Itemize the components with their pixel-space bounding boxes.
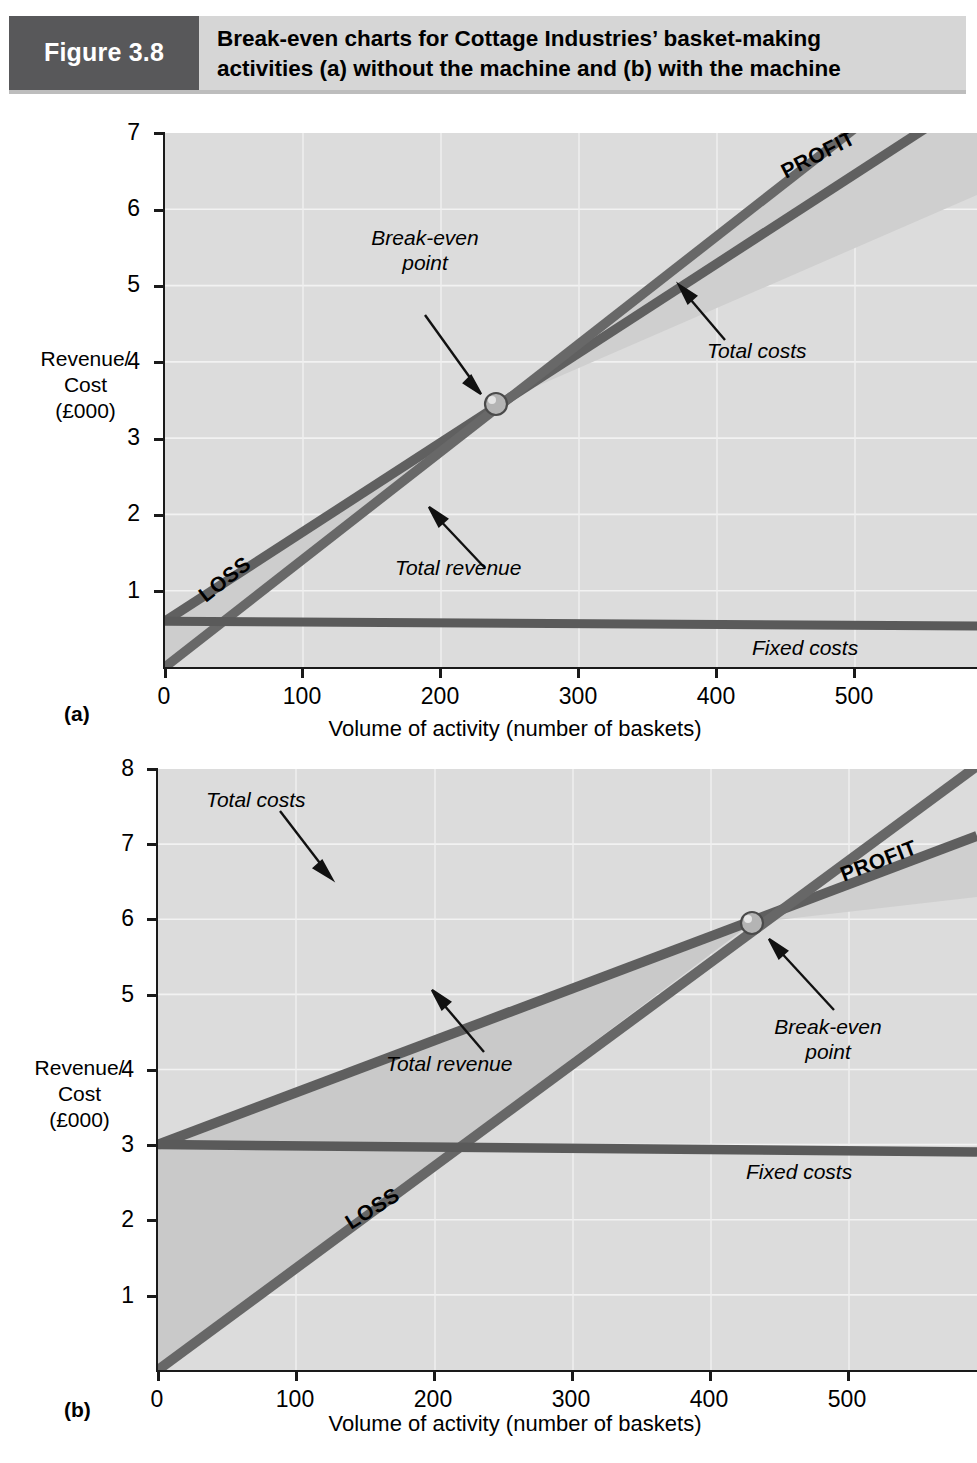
chart-a-ytick-3: 3: [106, 424, 140, 451]
figure-title: Break-even charts for Cottage Industries…: [217, 24, 962, 84]
chart-a-ytick-1: 1: [106, 577, 140, 604]
chart-a-break-even-highlight: [488, 396, 496, 404]
figure-number-label: Figure 3.8: [44, 38, 164, 67]
chart-b-ytick-8: 8: [100, 755, 134, 782]
chart-b-ytick-3: 3: [100, 1131, 134, 1158]
chart-a-x-axis-title: Volume of activity (number of baskets): [265, 716, 765, 742]
chart-b-xtick-100: 100: [265, 1386, 325, 1413]
chart-a-annotation-arrows: [165, 133, 725, 568]
chart-b-break-even-label-line2: point: [805, 1040, 851, 1063]
chart-b-xtick-mark-100: [295, 1370, 298, 1381]
chart-b-xtick-500: 500: [817, 1386, 877, 1413]
chart-b: Revenue/ Cost (£000) 8 7 6 5 4 3 2 1: [0, 755, 975, 1463]
chart-b-xtick-mark-500: [847, 1370, 850, 1381]
chart-a-break-even-label: Break-even point: [315, 225, 535, 275]
chart-a-ytick-5: 5: [106, 271, 140, 298]
chart-a-xtick-mark-0: [164, 667, 167, 678]
chart-b-ytick-1: 1: [100, 1282, 134, 1309]
chart-b-xtick-0: 0: [127, 1386, 187, 1413]
chart-a-y-title-line-2: Cost: [64, 373, 107, 396]
chart-a-xtick-200: 200: [410, 683, 470, 710]
chart-a-svg: [165, 133, 977, 669]
chart-b-ytick-7: 7: [100, 830, 134, 857]
figure-number-box: Figure 3.8: [9, 16, 199, 90]
chart-a-panel-label: (a): [64, 702, 90, 726]
chart-a-xtick-100: 100: [272, 683, 332, 710]
chart-a-xtick-mark-500: [853, 667, 856, 678]
chart-b-fixed-costs-label: Fixed costs: [746, 1159, 852, 1184]
chart-b-y-title-line-2: Cost: [58, 1082, 101, 1105]
chart-b-xtick-400: 400: [679, 1386, 739, 1413]
chart-a-break-even-label-line1: Break-even: [371, 226, 478, 249]
chart-a-xtick-400: 400: [686, 683, 746, 710]
chart-b-xtick-200: 200: [403, 1386, 463, 1413]
chart-a-plot-area: Break-even point Total costs Total reven…: [163, 133, 977, 669]
chart-b-ytick-4: 4: [100, 1056, 134, 1083]
chart-b-break-even-highlight: [744, 915, 752, 923]
chart-a-break-even-label-line2: point: [402, 251, 448, 274]
chart-a-xtick-mark-400: [715, 667, 718, 678]
chart-b-panel-label: (b): [64, 1398, 91, 1422]
figure-title-line-2: activities (a) without the machine and (…: [217, 54, 962, 84]
chart-b-total-revenue-label: Total revenue: [386, 1051, 512, 1076]
chart-b-total-costs-label: Total costs: [206, 787, 306, 812]
chart-b-break-even-label-line1: Break-even: [774, 1015, 881, 1038]
chart-a-fixed-costs-label: Fixed costs: [752, 635, 858, 660]
chart-a-ytick-6: 6: [106, 195, 140, 222]
figure-title-line-1: Break-even charts for Cottage Industries…: [217, 26, 821, 51]
chart-b-ytick-5: 5: [100, 981, 134, 1008]
chart-b-xtick-300: 300: [541, 1386, 601, 1413]
chart-b-ytick-6: 6: [100, 905, 134, 932]
chart-b-xtick-mark-0: [157, 1370, 160, 1381]
chart-b-break-even-label: Break-even point: [718, 1014, 938, 1064]
chart-b-y-title-line-3: (£000): [49, 1108, 110, 1131]
chart-b-xtick-mark-300: [571, 1370, 574, 1381]
chart-a-xtick-0: 0: [134, 683, 194, 710]
chart-a: Revenue/ Cost (£000) 7 6 5 4 3 2 1: [0, 110, 975, 730]
chart-a-total-revenue-label: Total revenue: [395, 555, 521, 580]
figure-header: Figure 3.8 Break-even charts for Cottage…: [9, 16, 966, 90]
chart-b-ytick-2: 2: [100, 1206, 134, 1233]
chart-a-ytick-7: 7: [106, 119, 140, 146]
chart-b-xtick-mark-200: [433, 1370, 436, 1381]
chart-a-fixed-costs-line: [165, 621, 977, 626]
chart-b-break-even-marker: [741, 912, 763, 934]
chart-a-total-costs-label: Total costs: [707, 338, 807, 363]
chart-a-xtick-mark-100: [301, 667, 304, 678]
chart-a-ytick-2: 2: [106, 500, 140, 527]
chart-b-xtick-mark-400: [709, 1370, 712, 1381]
chart-a-ytick-4: 4: [106, 348, 140, 375]
chart-b-x-axis-title: Volume of activity (number of baskets): [265, 1411, 765, 1437]
chart-a-xtick-300: 300: [548, 683, 608, 710]
chart-a-xtick-500: 500: [824, 683, 884, 710]
chart-a-xtick-mark-200: [439, 667, 442, 678]
chart-a-y-title-line-3: (£000): [55, 399, 116, 422]
chart-b-plot-area: Break-even point Total costs Total reven…: [156, 769, 977, 1372]
chart-a-break-even-marker: [485, 393, 507, 415]
chart-a-xtick-mark-300: [577, 667, 580, 678]
